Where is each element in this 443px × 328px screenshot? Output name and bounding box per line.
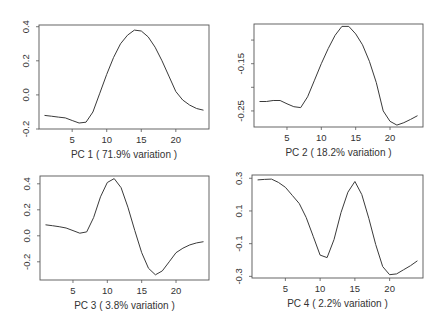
x-tick-label: 10	[101, 134, 112, 145]
x-axis-title: PC 3 ( 3.8% variation )	[74, 300, 175, 311]
loading-curve	[260, 26, 418, 125]
loading-curve	[258, 179, 418, 275]
y-tick-label: -0.25	[235, 100, 246, 122]
x-tick-label: 15	[350, 132, 361, 143]
panel-pc3: 5101520-0.20.00.20.4PC 3 ( 3.8% variatio…	[21, 176, 209, 311]
pca-loadings-panels: 5101520-0.20.00.20.4PC 1 ( 71.9% variati…	[0, 0, 443, 328]
x-tick-label: 10	[102, 285, 113, 296]
panel-pc4: 5101520-0.3-0.10.10.3PC 4 ( 2.2% variati…	[233, 172, 423, 309]
y-tick-label: 0.2	[20, 54, 31, 67]
x-tick-label: 20	[171, 285, 182, 296]
y-tick-label: -0.2	[20, 121, 31, 137]
x-axis-title: PC 2 ( 18.2% variation )	[285, 147, 391, 158]
plot-frame	[254, 24, 423, 127]
y-tick-label: -0.2	[21, 254, 32, 270]
x-tick-label: 10	[316, 132, 327, 143]
x-tick-label: 20	[385, 132, 396, 143]
x-axis-title: PC 1 ( 71.9% variation )	[71, 149, 177, 160]
y-tick-label: 0.3	[233, 172, 244, 185]
loading-curve	[46, 179, 204, 275]
x-tick-label: 15	[136, 134, 147, 145]
x-tick-label: 5	[283, 283, 288, 294]
x-tick-label: 5	[70, 285, 75, 296]
y-tick-label: -0.1	[233, 235, 244, 251]
loading-curve	[45, 30, 204, 123]
y-tick-label: 0.0	[21, 229, 32, 242]
y-tick-label: 0.2	[21, 203, 32, 216]
x-tick-label: 20	[384, 283, 395, 294]
x-axis-title: PC 4 ( 2.2% variation )	[287, 298, 388, 309]
x-tick-label: 5	[284, 132, 289, 143]
x-tick-label: 20	[171, 134, 182, 145]
x-tick-label: 10	[315, 283, 326, 294]
x-tick-label: 15	[350, 283, 361, 294]
y-tick-label: 0.4	[20, 20, 31, 33]
y-tick-label: 0.1	[233, 204, 244, 217]
panel-pc1: 5101520-0.20.00.20.4PC 1 ( 71.9% variati…	[20, 20, 209, 160]
plot-frame	[39, 25, 209, 129]
panel-pc2: 5101520-0.15-0.25PC 2 ( 18.2% variation …	[235, 24, 423, 158]
y-tick-label: -0.3	[233, 268, 244, 284]
x-tick-label: 5	[70, 134, 75, 145]
y-tick-label: 0.4	[21, 177, 32, 190]
pca-figure: 5101520-0.20.00.20.4PC 1 ( 71.9% variati…	[0, 0, 443, 328]
y-tick-label: -0.15	[235, 53, 246, 75]
x-tick-label: 15	[136, 285, 147, 296]
y-tick-label: 0.0	[20, 88, 31, 101]
